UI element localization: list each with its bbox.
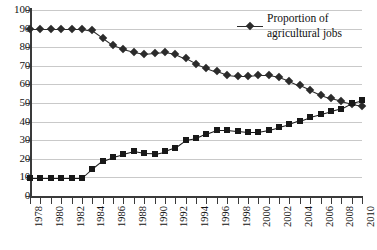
square-marker-icon <box>307 114 313 120</box>
x-axis-tick-label: 1978 <box>34 206 45 227</box>
x-axis-tick <box>300 198 301 204</box>
x-axis-tick <box>61 198 62 204</box>
square-marker-icon <box>48 175 54 181</box>
figure-caption <box>0 240 368 250</box>
x-axis-tick-label: 2004 <box>304 206 315 227</box>
x-axis-tick <box>248 198 249 204</box>
square-marker-icon <box>328 108 334 114</box>
x-axis-tick-label: 2008 <box>345 206 356 227</box>
y-axis-labels: 1009080706050403020100 <box>0 0 30 210</box>
square-marker-icon <box>131 148 137 154</box>
diamond-marker-icon <box>316 90 324 98</box>
x-axis-tick <box>258 198 259 204</box>
diamond-marker-icon <box>57 24 65 32</box>
x-axis-tick <box>238 198 239 204</box>
square-marker-icon <box>203 131 209 137</box>
square-marker-icon <box>276 124 282 130</box>
x-axis-tick <box>352 198 353 204</box>
diamond-marker-icon <box>246 22 254 30</box>
x-axis-tick-label: 2002 <box>283 206 294 227</box>
diamond-marker-icon <box>213 67 221 75</box>
diamond-marker-icon <box>306 86 314 94</box>
diamond-marker-icon <box>327 94 335 102</box>
x-axis-tick <box>30 198 31 204</box>
x-axis-tick-label: 2010 <box>366 206 377 227</box>
square-marker-icon <box>120 151 126 157</box>
x-axis-ticks <box>30 198 363 205</box>
diamond-marker-icon <box>337 97 345 105</box>
x-axis-tick <box>165 198 166 204</box>
square-marker-icon <box>359 97 365 103</box>
diamond-marker-icon <box>264 71 272 79</box>
x-axis-tick <box>113 198 114 204</box>
square-marker-icon <box>193 135 199 141</box>
x-axis-tick-label: 1992 <box>179 206 190 227</box>
x-axis-tick <box>51 198 52 204</box>
diamond-marker-icon <box>67 24 75 32</box>
x-axis-tick-label: 1982 <box>76 206 87 227</box>
x-axis-tick <box>341 198 342 204</box>
square-marker-icon <box>245 129 251 135</box>
square-marker-icon <box>255 129 261 135</box>
square-marker-icon <box>172 145 178 151</box>
diamond-marker-icon <box>192 60 200 68</box>
square-marker-icon <box>338 106 344 112</box>
legend: Proportion of agricultural jobs <box>235 10 363 43</box>
x-axis-tick-label: 2006 <box>325 206 336 227</box>
legend-label: Proportion of agricultural jobs <box>267 11 342 40</box>
x-axis-tick <box>144 198 145 204</box>
square-marker-icon <box>79 175 85 181</box>
x-axis-tick-label: 1994 <box>200 206 211 227</box>
diamond-marker-icon <box>161 48 169 56</box>
square-marker-icon <box>58 175 64 181</box>
x-axis-tick-label: 1980 <box>55 206 66 227</box>
x-axis-tick <box>40 198 41 204</box>
diamond-marker-icon <box>109 41 117 49</box>
x-axis-tick <box>123 198 124 204</box>
x-axis-tick <box>134 198 135 204</box>
x-axis-tick <box>186 198 187 204</box>
x-axis-tick <box>72 198 73 204</box>
diamond-marker-icon <box>140 49 148 57</box>
square-marker-icon <box>162 148 168 154</box>
square-marker-icon <box>27 175 33 181</box>
square-marker-icon <box>235 128 241 134</box>
square-marker-icon <box>266 127 272 133</box>
diamond-marker-icon <box>130 48 138 56</box>
diamond-marker-icon <box>244 72 252 80</box>
square-marker-icon <box>349 100 355 106</box>
x-axis-tick-label: 1986 <box>117 206 128 227</box>
x-axis-tick-label: 2000 <box>262 206 273 227</box>
square-marker-icon <box>37 175 43 181</box>
x-axis-tick <box>289 198 290 204</box>
x-axis-tick <box>92 198 93 204</box>
diamond-marker-icon <box>233 72 241 80</box>
x-axis-tick <box>279 198 280 204</box>
x-axis-tick <box>310 198 311 204</box>
x-axis-tick <box>362 198 363 204</box>
x-axis-tick <box>269 198 270 204</box>
x-axis-tick <box>82 198 83 204</box>
x-axis-tick <box>103 198 104 204</box>
square-marker-icon <box>297 118 303 124</box>
x-axis-tick <box>321 198 322 204</box>
x-axis-tick <box>217 198 218 204</box>
diamond-marker-icon <box>119 45 127 53</box>
square-marker-icon <box>183 137 189 143</box>
square-marker-icon <box>89 166 95 172</box>
diamond-marker-icon <box>254 71 262 79</box>
square-marker-icon <box>224 127 230 133</box>
diamond-marker-icon <box>36 24 44 32</box>
square-marker-icon <box>214 127 220 133</box>
square-marker-icon <box>100 158 106 164</box>
x-axis-tick-label: 1990 <box>159 206 170 227</box>
x-axis-tick-label: 1998 <box>242 206 253 227</box>
x-axis-tick <box>331 198 332 204</box>
x-axis-tick-label: 1984 <box>96 206 107 227</box>
diamond-marker-icon <box>78 24 86 32</box>
x-axis-tick <box>196 198 197 204</box>
x-axis-tick <box>227 198 228 204</box>
diamond-marker-icon <box>47 24 55 32</box>
diamond-marker-icon <box>223 71 231 79</box>
